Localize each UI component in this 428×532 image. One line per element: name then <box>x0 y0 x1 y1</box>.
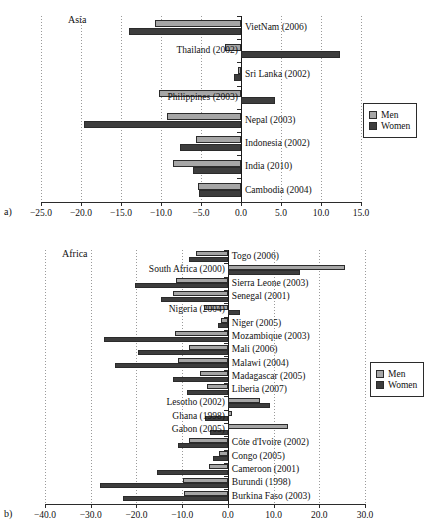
x-axis-tick-label: 10.0 <box>313 208 330 218</box>
bar-women <box>241 51 340 58</box>
category-label: Nepal (2003) <box>245 115 295 125</box>
bar-men <box>228 265 345 270</box>
bar-women <box>129 28 241 35</box>
x-axis <box>45 504 365 505</box>
category-label: Mozambique (2003) <box>232 331 310 341</box>
x-axis-tick <box>91 504 92 508</box>
x-axis-tick <box>319 504 320 508</box>
legend: MenWomen <box>370 362 424 397</box>
category-tick <box>237 39 241 40</box>
category-label: Indonesia (2002) <box>245 138 310 148</box>
x-axis-tick-label: −20.0 <box>70 208 92 218</box>
bar-women <box>241 97 275 104</box>
category-tick <box>237 178 241 179</box>
grid-line <box>365 250 366 504</box>
chart-page: VietNam (2006)Thailand (2002)Sri Lanka (… <box>0 0 428 532</box>
bar-women <box>178 443 228 448</box>
bar-women <box>189 257 228 262</box>
bar-men <box>178 358 227 363</box>
category-label: Mali (2006) <box>232 344 278 354</box>
category-label: Philippines (2003) <box>168 92 238 102</box>
bar-row <box>45 345 365 355</box>
bar-men <box>219 451 228 456</box>
category-label: Thailand (2002) <box>177 45 238 55</box>
category-tick <box>224 343 228 344</box>
category-tick <box>224 250 228 251</box>
x-axis-tick-label: −10.0 <box>150 208 172 218</box>
category-label: Lesotho (2002) <box>167 397 225 407</box>
bar-row <box>45 291 365 301</box>
bar-women <box>173 377 228 382</box>
category-tick <box>224 317 228 318</box>
category-label: Côte d'Ivoire (2002) <box>232 437 309 447</box>
legend: MenWomen <box>363 103 417 138</box>
panel-africa: Togo (2006)South Africa (2000)Sierra Leo… <box>0 234 428 532</box>
category-label: Togo (2006) <box>232 251 279 261</box>
x-axis-tick-label: −20.0 <box>125 510 147 520</box>
bar-men <box>175 331 228 336</box>
legend-swatch-icon <box>376 370 384 378</box>
category-label: Cambodia (2004) <box>245 185 312 195</box>
x-axis-tick-label: 20.0 <box>311 510 328 520</box>
legend-label: Women <box>381 121 410 131</box>
bar-women <box>228 403 270 408</box>
x-axis-tick-label: 10.0 <box>265 510 282 520</box>
bar-men <box>196 251 228 256</box>
bar-men <box>183 478 228 483</box>
bar-row <box>41 20 361 35</box>
bar-men <box>189 345 228 350</box>
x-axis-tick-label: −5.0 <box>192 208 209 218</box>
bar-row <box>45 438 365 448</box>
x-axis-tick <box>241 202 242 206</box>
bar-men <box>238 67 241 74</box>
category-label: Ghana (1998) <box>172 411 225 421</box>
category-tick <box>224 383 228 384</box>
legend-item-men[interactable]: Men <box>376 369 417 379</box>
category-tick <box>237 155 241 156</box>
legend-label: Men <box>388 369 405 379</box>
panel-asia: VietNam (2006)Thailand (2002)Sri Lanka (… <box>0 0 428 232</box>
x-axis-tick-label: 5.0 <box>275 208 287 218</box>
panel-label: b) <box>4 508 12 519</box>
category-label: India (2010) <box>245 161 292 171</box>
category-tick <box>237 16 241 17</box>
panel-label: a) <box>4 206 12 217</box>
category-label: Malawi (2004) <box>232 358 289 368</box>
bar-men <box>155 20 241 27</box>
bar-women <box>84 121 241 128</box>
bar-row <box>45 451 365 461</box>
x-axis-tick-label: −30.0 <box>80 510 102 520</box>
category-label: Nigeria (2004) <box>169 304 225 314</box>
legend-item-women[interactable]: Women <box>376 380 417 390</box>
bar-women <box>104 337 227 342</box>
bar-row <box>45 331 365 341</box>
category-label: Cameroon (2001) <box>232 464 299 474</box>
category-tick <box>224 330 228 331</box>
bar-women <box>100 483 228 488</box>
x-axis-tick <box>136 504 137 508</box>
bar-men <box>176 278 228 283</box>
bar-men <box>209 464 228 469</box>
bar-men <box>198 183 241 190</box>
category-tick <box>237 132 241 133</box>
legend-item-women[interactable]: Women <box>369 121 410 131</box>
x-axis-tick <box>228 504 229 508</box>
x-axis-tick-label: −40.0 <box>34 510 56 520</box>
category-label: Senegal (2001) <box>232 291 290 301</box>
bar-women <box>135 283 228 288</box>
bar-women <box>213 456 228 461</box>
bar-row <box>41 136 361 151</box>
legend-item-men[interactable]: Men <box>369 110 410 120</box>
legend-swatch-icon <box>369 111 377 119</box>
category-tick <box>237 86 241 87</box>
category-tick <box>224 290 228 291</box>
bar-women <box>218 323 228 328</box>
x-axis-tick <box>274 504 275 508</box>
category-label: Gabon (2005) <box>172 424 225 434</box>
category-tick <box>224 489 228 490</box>
bar-women <box>199 190 241 197</box>
x-axis-tick-label: 0.0 <box>222 510 234 520</box>
plot-area <box>41 16 361 202</box>
bar-women <box>123 496 228 501</box>
bar-men <box>173 160 241 167</box>
